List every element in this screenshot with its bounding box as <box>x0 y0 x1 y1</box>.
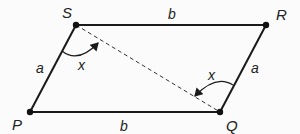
side-RQ <box>220 25 266 112</box>
side-label-top: b <box>168 6 176 22</box>
side-label-bottom: b <box>120 118 128 134</box>
vertex-label-Q: Q <box>226 117 238 134</box>
vertex-Q-dot <box>217 109 223 115</box>
angle-label-Q: x <box>207 67 216 83</box>
vertex-P-dot <box>27 109 33 115</box>
angle-arc-S <box>62 43 98 56</box>
vertex-label-P: P <box>12 116 22 133</box>
angle-arc-Q <box>195 81 233 96</box>
parallelogram-diagram: S R P Q b b a a x x <box>0 0 300 134</box>
diagonal-SQ <box>76 25 220 112</box>
vertex-label-S: S <box>62 4 72 21</box>
diagram-svg: S R P Q b b a a x x <box>0 0 300 134</box>
vertex-label-R: R <box>276 6 287 23</box>
vertex-R-dot <box>263 22 269 28</box>
vertex-S-dot <box>73 22 79 28</box>
side-label-left: a <box>36 60 44 76</box>
angle-label-S: x <box>77 57 86 73</box>
side-label-right: a <box>251 60 259 76</box>
